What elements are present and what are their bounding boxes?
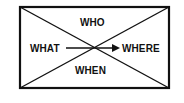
who-what-where-when-diagram: WHO WHAT WHERE WHEN xyxy=(0,0,184,103)
label-when: WHEN xyxy=(75,66,106,76)
label-what: WHAT xyxy=(30,44,60,54)
label-where: WHERE xyxy=(122,44,160,54)
label-who: WHO xyxy=(80,18,105,28)
arrow-head-icon xyxy=(112,44,120,52)
